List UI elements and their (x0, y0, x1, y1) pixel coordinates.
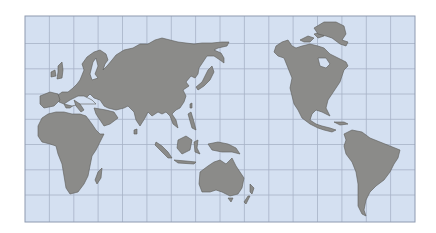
sri-lanka (134, 129, 137, 134)
taiwan (190, 103, 192, 108)
world-map (0, 0, 436, 233)
